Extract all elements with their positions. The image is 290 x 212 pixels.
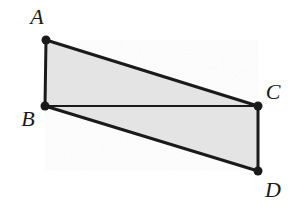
vertex-dot-c — [254, 102, 263, 111]
vertex-label-b: B — [21, 108, 34, 130]
vertex-dot-d — [254, 167, 263, 176]
vertex-dot-b — [41, 102, 50, 111]
geometry-figure: A B C D — [0, 0, 290, 212]
vertex-dot-a — [42, 36, 51, 45]
vertex-label-a: A — [30, 6, 43, 28]
figure-canvas — [0, 0, 290, 212]
vertex-label-c: C — [266, 81, 281, 103]
vertex-label-d: D — [265, 179, 281, 201]
edge-ab — [45, 40, 46, 106]
